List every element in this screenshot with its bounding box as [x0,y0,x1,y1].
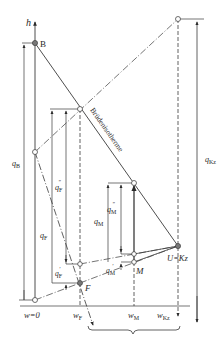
qM-prime-label: qM′ [106,263,116,276]
qF-label: qF [40,231,48,241]
qM-double-prime-label: qM″ [107,201,117,215]
qKz-label: qKz [205,155,216,165]
point-U-Kz [175,243,180,248]
bruedenisotherme-label: Brüdenisotherme [88,106,125,154]
qF-prime-label: qF′ [55,266,63,279]
point-B [32,40,37,45]
point-h-axis-circle [33,150,38,155]
bruedenisotherme-line [35,43,178,246]
point-F-prime [78,262,83,267]
point-top-right [176,17,181,22]
point-U-Kz-label: U=Kz [167,253,189,263]
wM-label: wM [128,310,140,321]
w0-label: w=0 [24,310,40,320]
point-F-label: F [84,283,91,293]
qF-double-prime-label: qF″ [55,179,63,193]
point-M-label: M [135,266,144,276]
point-M [132,260,137,265]
point-F [78,281,83,286]
point-upper-intersection [78,107,83,112]
qM-label: qM [94,217,104,227]
point-w0 [33,298,38,303]
point-M-upper [132,181,137,186]
h-w-diagram: h Brüdenisotherme qKz qB qF qF″ qF′ qM [0,0,222,347]
h-axis-label: h [26,17,31,28]
qB-label: qB [12,159,20,169]
wKz-label: wKz [157,310,170,321]
point-M-prime [132,252,137,257]
wF-label: wF [73,310,83,321]
point-B-label: B [40,39,46,49]
h-axis: h [26,17,35,300]
bottom-brace [88,326,180,334]
